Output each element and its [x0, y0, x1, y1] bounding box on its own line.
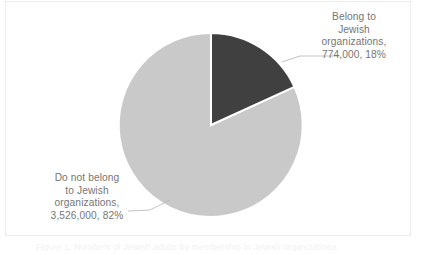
data-label-do-not-belong: Do not belong to Jewish organizations, 3… — [26, 172, 148, 222]
figure-caption: Figure 1. Numbers of Jewish adults by me… — [36, 242, 396, 251]
data-label-belong: Belong to Jewish organizations, 774,000,… — [296, 11, 412, 61]
chart-screenshot: Belong to Jewish organizations, 774,000,… — [0, 0, 423, 255]
